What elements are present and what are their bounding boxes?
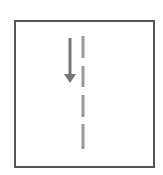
arrow-down-icon (64, 38, 76, 83)
diagram-graphics (0, 0, 163, 175)
diagram-canvas (0, 0, 163, 175)
